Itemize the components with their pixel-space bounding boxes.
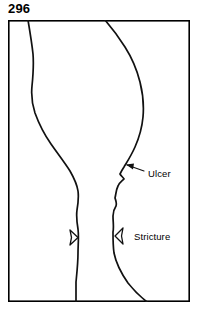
frame-border-rect [9,21,189,301]
figure-frame: Ulcer Stricture [8,20,190,302]
figure-page: 296 Ulcer Stricture [0,0,198,312]
page-number: 296 [8,1,30,17]
ulcer-label: Ulcer [148,168,171,179]
stricture-label: Stricture [134,231,170,242]
anatomical-illustration: Ulcer Stricture [8,20,190,302]
